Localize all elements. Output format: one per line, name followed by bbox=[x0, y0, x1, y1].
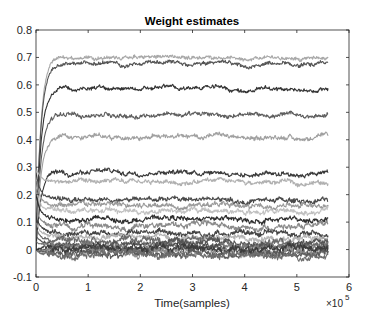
y-tick-label: 0 bbox=[26, 244, 32, 256]
x-tick-label: 4 bbox=[242, 281, 248, 293]
y-tick-label: 0.1 bbox=[17, 216, 32, 228]
x-tick-label: 2 bbox=[137, 281, 143, 293]
x-tick-label: 3 bbox=[189, 281, 195, 293]
x-tick-label: 5 bbox=[294, 281, 300, 293]
y-tick-label: 0.6 bbox=[17, 79, 32, 91]
y-tick-label: 0.4 bbox=[17, 134, 32, 146]
y-tick-label: 0.7 bbox=[17, 51, 32, 63]
x-tick-label: 1 bbox=[85, 281, 91, 293]
x-exponent-base: ×10 bbox=[326, 298, 343, 309]
x-tick-label: 6 bbox=[346, 281, 352, 293]
x-exponent-power: 5 bbox=[345, 293, 350, 302]
x-axis-label: Time(samples) bbox=[154, 297, 230, 309]
weight-estimates-figure: 0123456-0.100.10.20.30.40.50.60.70.8 Wei… bbox=[0, 0, 368, 322]
y-tick-label: 0.3 bbox=[17, 161, 32, 173]
chart-title: Weight estimates bbox=[145, 15, 239, 27]
figure-background bbox=[0, 0, 368, 322]
x-tick-label: 0 bbox=[33, 281, 39, 293]
y-tick-label: 0.8 bbox=[17, 24, 32, 36]
y-tick-label: 0.5 bbox=[17, 106, 32, 118]
y-tick-label: 0.2 bbox=[17, 189, 32, 201]
y-tick-label: -0.1 bbox=[13, 271, 32, 283]
